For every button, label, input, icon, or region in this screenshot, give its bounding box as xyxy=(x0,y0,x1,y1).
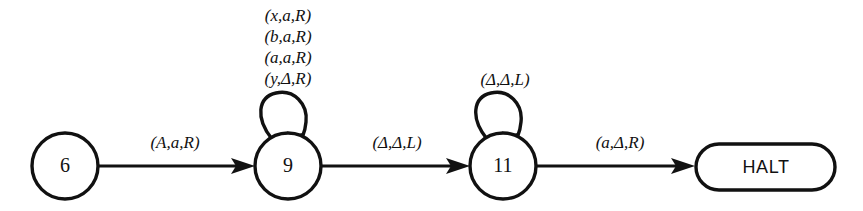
state-node-halt[interactable]: HALT xyxy=(696,144,835,190)
transition-11-to-halt: (a,Δ,R) xyxy=(536,133,695,174)
self-loop-state-11-labels: (Δ,Δ,L) xyxy=(480,70,530,89)
transition-11-to-halt-label: (a,Δ,R) xyxy=(596,133,645,152)
turing-machine-state-diagram: (A,a,R) (Δ,Δ,L) (a,Δ,R) 6 xyxy=(0,0,863,211)
state-node-11[interactable]: 11 xyxy=(470,133,536,199)
state-node-9-label: 9 xyxy=(283,154,293,176)
self-loop-state-11-label-1: (Δ,Δ,L) xyxy=(480,70,530,89)
diagram-canvas: (A,a,R) (Δ,Δ,L) (a,Δ,R) 6 xyxy=(0,0,863,211)
state-node-6-label: 6 xyxy=(60,154,70,176)
transition-9-to-11: (Δ,Δ,L) xyxy=(321,133,470,174)
self-loop-state-9-label-3: (a,a,R) xyxy=(264,48,312,67)
self-loop-state-9-label-1: (x,a,R) xyxy=(265,6,312,25)
transition-9-to-11-label: (Δ,Δ,L) xyxy=(372,133,422,152)
self-loop-state-9-label-4: (y,Δ,R) xyxy=(265,69,312,88)
transition-6-to-9-label: (A,a,R) xyxy=(150,133,199,152)
self-loop-state-9-label-2: (b,a,R) xyxy=(264,27,312,46)
state-node-9[interactable]: 9 xyxy=(255,133,321,199)
state-node-halt-label: HALT xyxy=(742,157,789,177)
state-node-6[interactable]: 6 xyxy=(32,133,98,199)
state-node-11-label: 11 xyxy=(493,154,512,176)
self-loop-state-9-labels: (x,a,R) (b,a,R) (a,a,R) (y,Δ,R) xyxy=(264,6,312,88)
transition-6-to-9: (A,a,R) xyxy=(98,133,255,174)
